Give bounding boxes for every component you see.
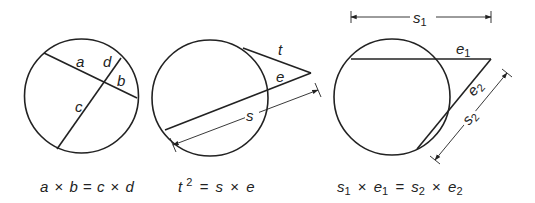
label-t: t: [278, 41, 283, 58]
label-e2: e2: [463, 77, 487, 100]
secant-2: [417, 59, 491, 149]
circle-3: [334, 39, 450, 155]
formula-chords: a × b = c × d: [40, 178, 135, 195]
label-a: a: [76, 53, 84, 70]
panel-tangent-secant: s t e t 2 = s × e: [152, 40, 321, 195]
chord-cd: [57, 58, 121, 149]
circle-theorems-diagram: a d b c a × b = c × d s t e t 2 =: [0, 0, 535, 203]
label-c: c: [75, 98, 83, 115]
secant-line: [165, 73, 311, 130]
panel-intersecting-chords: a d b c a × b = c × d: [25, 39, 139, 195]
dimension-s2-tick-start: [502, 69, 512, 77]
circle-2: [152, 40, 268, 156]
formula-secant-secant: s1 × e1 = s2 × e2: [337, 178, 463, 198]
label-s: s: [246, 107, 254, 124]
label-e: e: [276, 68, 284, 85]
dimension-s-tick-end: [315, 83, 321, 97]
panel-secant-secant: s1 e1 e2 s2 s1 × e1 = s2 × e2: [334, 7, 512, 198]
label-d: d: [103, 53, 112, 70]
label-e1: e1: [456, 40, 470, 59]
label-b: b: [117, 72, 125, 89]
dimension-s2-tick-end: [430, 156, 440, 164]
formula-tangent-secant: t 2 = s × e: [178, 172, 255, 195]
